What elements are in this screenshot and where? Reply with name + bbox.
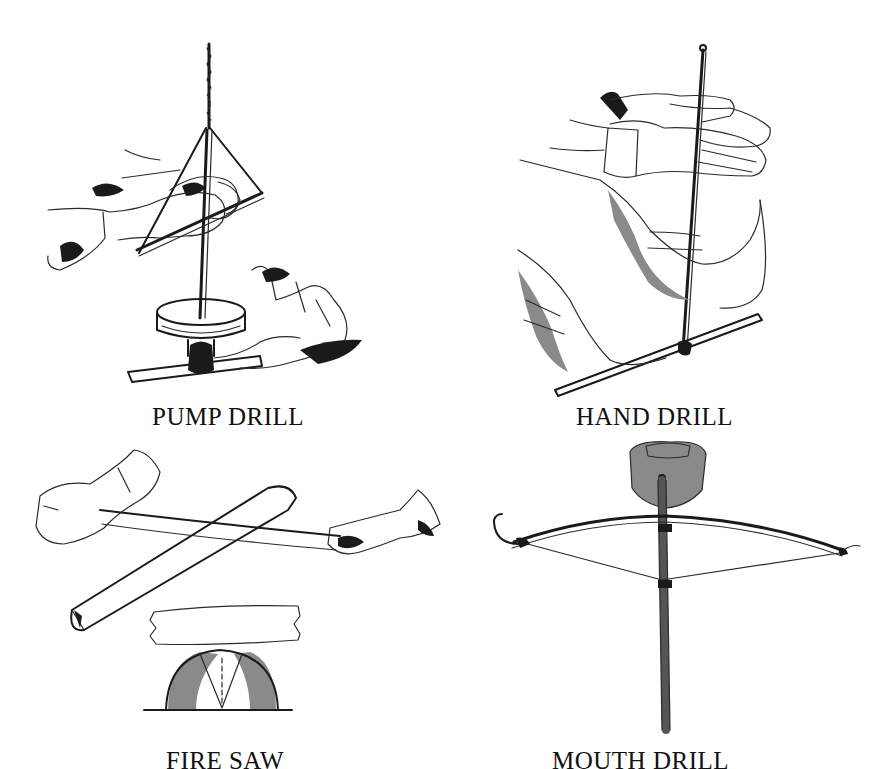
pump-drill-illustration [0, 0, 440, 440]
panel-pump-drill: PUMP DRILL [0, 0, 440, 440]
panel-mouth-drill: MOUTH DRILL [440, 440, 880, 769]
caption-fire-saw: FIRE SAW [166, 748, 284, 769]
hand-drill-illustration [440, 0, 880, 440]
fire-saw-illustration [0, 440, 440, 769]
mouth-drill-illustration [440, 440, 880, 769]
caption-hand-drill: HAND DRILL [576, 404, 733, 429]
caption-mouth-drill: MOUTH DRILL [552, 748, 729, 769]
panel-fire-saw: FIRE SAW [0, 440, 440, 769]
caption-pump-drill: PUMP DRILL [152, 404, 304, 429]
panel-hand-drill: HAND DRILL [440, 0, 880, 440]
